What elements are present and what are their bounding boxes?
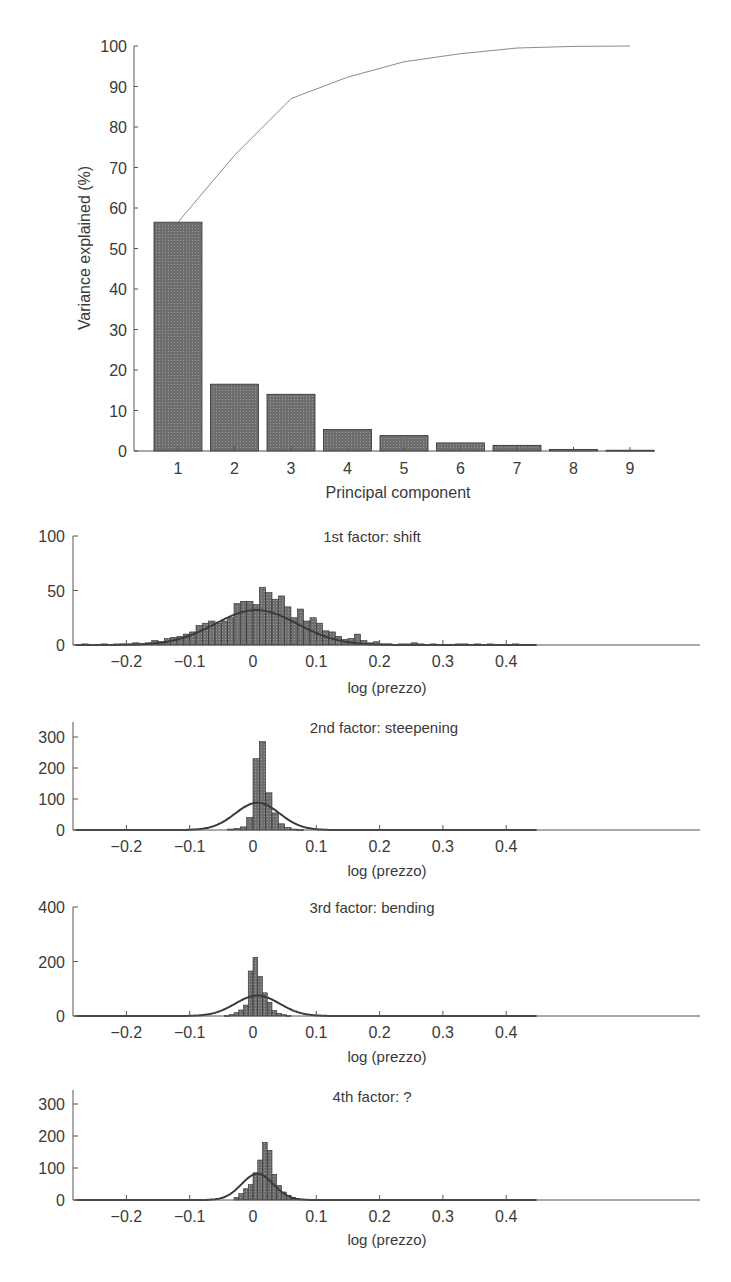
- x-tick-label: 2: [230, 460, 239, 477]
- histogram-bar: [278, 824, 284, 830]
- variance-x-axis-label: Principal component: [326, 484, 472, 501]
- x-tick-label: 9: [626, 460, 635, 477]
- factor3-x-axis-label: log (prezzo): [347, 1048, 426, 1065]
- histogram-bar: [278, 596, 284, 645]
- x-tick-label: 5: [400, 460, 409, 477]
- histogram-bars: [82, 587, 519, 645]
- histogram-bar: [239, 1010, 244, 1016]
- x-tick-label: −0.2: [111, 1208, 143, 1225]
- variance-bar: [154, 222, 202, 451]
- factor2-histogram: 2nd factor: steepening log (prezzo) 0100…: [38, 719, 700, 879]
- y-tick-label: 200: [38, 1128, 65, 1145]
- cumulative-variance-line: [178, 46, 630, 222]
- factor3-title: 3rd factor: bending: [309, 899, 434, 916]
- x-tick-label: 0.2: [368, 838, 390, 855]
- x-tick-label: −0.2: [111, 1024, 143, 1041]
- x-tick-label: 0.3: [432, 838, 454, 855]
- factor1-x-axis-label: log (prezzo): [347, 679, 426, 696]
- x-tick-label: 0.1: [305, 653, 327, 670]
- x-tick-label: 6: [456, 460, 465, 477]
- histogram-bars: [225, 957, 291, 1016]
- x-tick-label: −0.1: [174, 653, 206, 670]
- x-tick-label: 0.4: [495, 653, 517, 670]
- y-tick-label: 100: [100, 38, 127, 55]
- x-tick-label: 4: [343, 460, 352, 477]
- y-tick-label: 80: [109, 119, 127, 136]
- x-tick-label: 0: [249, 1024, 258, 1041]
- y-tick-label: 50: [109, 241, 127, 258]
- y-tick-label: 400: [38, 899, 65, 916]
- y-tick-label: 0: [56, 822, 65, 839]
- histogram-bar: [239, 1194, 244, 1200]
- x-tick-label: 0.2: [368, 653, 390, 670]
- histogram-bar: [304, 621, 310, 645]
- factor4-histogram: 4th factor: ? log (prezzo) 0100200300−0.…: [38, 1088, 700, 1248]
- histogram-bar: [244, 1005, 249, 1016]
- histogram-bar: [234, 604, 240, 645]
- x-tick-label: −0.1: [174, 1208, 206, 1225]
- histogram-bar: [267, 1150, 272, 1200]
- factor4-title: 4th factor: ?: [332, 1088, 411, 1105]
- histogram-bar: [247, 601, 253, 645]
- y-tick-label: 10: [109, 403, 127, 420]
- y-tick-label: 200: [38, 954, 65, 971]
- histogram-bar: [228, 618, 234, 645]
- histogram-bar: [244, 1189, 249, 1200]
- variance-y-axis-label: Variance explained (%): [76, 166, 93, 330]
- x-tick-label: 8: [569, 460, 578, 477]
- x-tick-label: 0.4: [495, 838, 517, 855]
- x-tick-label: 0: [249, 653, 258, 670]
- histogram-bars: [228, 742, 304, 831]
- x-tick-label: 0.1: [305, 1208, 327, 1225]
- histogram-bar: [266, 593, 272, 645]
- factor1-histogram: 1st factor: shift log (prezzo) 050100−0.…: [38, 528, 700, 696]
- histogram-bar: [267, 1002, 272, 1016]
- x-tick-label: 0.3: [432, 653, 454, 670]
- y-tick-label: 20: [109, 362, 127, 379]
- x-tick-label: 0.2: [368, 1208, 390, 1225]
- y-tick-label: 30: [109, 322, 127, 339]
- y-tick-label: 300: [38, 1096, 65, 1113]
- histogram-bar: [253, 759, 259, 830]
- histogram-bar: [221, 621, 227, 645]
- histogram-bar: [259, 742, 265, 830]
- factor2-x-axis-label: log (prezzo): [347, 862, 426, 879]
- y-tick-label: 200: [38, 760, 65, 777]
- x-tick-label: 0.1: [305, 1024, 327, 1041]
- x-tick-label: 0: [249, 1208, 258, 1225]
- histogram-bar: [253, 1173, 258, 1200]
- histogram-bar: [266, 793, 272, 830]
- y-tick-label: 90: [109, 79, 127, 96]
- x-tick-label: 7: [513, 460, 522, 477]
- y-tick-label: 0: [56, 1008, 65, 1025]
- x-tick-label: 0: [249, 838, 258, 855]
- x-tick-label: 0.3: [432, 1208, 454, 1225]
- y-tick-label: 50: [47, 583, 65, 600]
- x-tick-label: −0.1: [174, 838, 206, 855]
- factor4-x-axis-label: log (prezzo): [347, 1231, 426, 1248]
- x-tick-label: −0.2: [111, 653, 143, 670]
- y-tick-label: 100: [38, 791, 65, 808]
- variance-bar: [267, 394, 315, 451]
- histogram-bar: [285, 607, 291, 645]
- histogram-bar: [258, 1160, 263, 1200]
- x-tick-label: 0.4: [495, 1024, 517, 1041]
- variance-bars: [154, 222, 654, 451]
- y-tick-label: 100: [38, 1160, 65, 1177]
- histogram-bar: [272, 599, 278, 645]
- histogram-bar: [215, 623, 221, 645]
- x-tick-label: 0.1: [305, 838, 327, 855]
- x-tick-label: 0.2: [368, 1024, 390, 1041]
- normal-fit-curve: [76, 1174, 537, 1200]
- y-tick-label: 70: [109, 160, 127, 177]
- factor1-title: 1st factor: shift: [323, 528, 421, 545]
- histogram-bar: [248, 971, 253, 1016]
- normal-fit-curve: [76, 996, 537, 1016]
- histogram-bar: [196, 625, 202, 645]
- histogram-bar: [272, 813, 278, 830]
- x-tick-label: −0.1: [174, 1024, 206, 1041]
- y-tick-label: 60: [109, 200, 127, 217]
- pca-figure: 0102030405060708090100123456789 Variance…: [0, 0, 731, 1282]
- x-tick-label: 1: [174, 460, 183, 477]
- histogram-bar: [240, 601, 246, 645]
